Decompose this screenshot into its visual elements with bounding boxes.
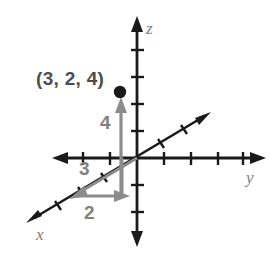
y-component-label: 2	[84, 203, 95, 222]
coordinate-system-figure: (3, 2, 4) 4 3 2 z y x	[0, 0, 270, 256]
z-axis-arrowhead-negative	[131, 231, 143, 247]
x-component-label: 3	[79, 159, 90, 178]
x-axis-arrowhead-front	[26, 210, 42, 223]
y-axis-arrowhead-negative	[52, 152, 68, 164]
z-component-label: 4	[100, 113, 111, 132]
x-axis-label: x	[36, 226, 44, 243]
z-axis-label: z	[146, 20, 153, 37]
point-coordinate-label: (3, 2, 4)	[36, 69, 104, 88]
x-axis-arrowhead-back	[195, 112, 211, 125]
z-axis-arrowhead-positive	[131, 16, 143, 32]
y-axis-arrowhead-positive	[250, 152, 266, 164]
z-axis	[131, 16, 144, 247]
z-component-arrowhead	[115, 97, 127, 113]
plotted-point-marker	[114, 86, 126, 98]
y-axis-label: y	[246, 169, 254, 186]
axes-drawing	[0, 0, 270, 256]
z-component-arrow	[115, 97, 127, 196]
